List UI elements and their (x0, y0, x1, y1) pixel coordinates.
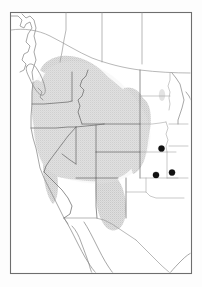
occurrence-point-1[interactable] (158, 145, 164, 151)
occurrence-point-2[interactable] (153, 172, 159, 178)
range-spot-north-dakota (159, 89, 165, 101)
distribution-map-figure (0, 0, 202, 287)
occurrence-point-3[interactable] (169, 169, 175, 175)
map-canvas (0, 0, 202, 287)
